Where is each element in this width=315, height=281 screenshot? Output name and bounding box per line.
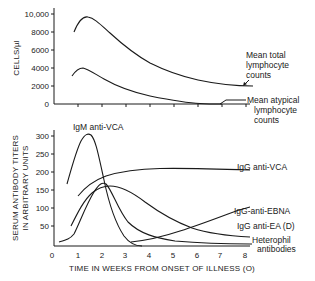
bottom-ytick-label: 200 [36, 168, 50, 177]
annotation-total-lymphocytes: Mean total lymphocyte counts [243, 50, 289, 86]
curve-atypical-lymphocytes [72, 68, 222, 104]
bottom-ytick-label: 250 [36, 150, 50, 159]
bottom-ytick-label: 100 [36, 204, 50, 213]
bottom-ytick-label: 50 [40, 222, 49, 231]
svg-text:Mean atypical: Mean atypical [247, 95, 300, 105]
svg-text:5: 5 [171, 251, 176, 260]
top-chart: 10,000 8000 6000 4000 2000 0 CELLS/µl Me… [12, 8, 300, 125]
top-ytick-label: 2000 [31, 82, 49, 91]
top-y-ticks: 10,000 8000 6000 4000 2000 0 [25, 10, 54, 109]
curve-total-lymphocytes [74, 17, 253, 86]
curve-igm-anti-vca [67, 134, 142, 246]
svg-text:6: 6 [195, 251, 200, 260]
svg-text:antibodies: antibodies [257, 244, 296, 254]
curve-igg-anti-ea [71, 186, 250, 237]
label-igm-anti-vca: IgM anti-VCA [73, 122, 124, 132]
bottom-x-ticks: 0 1 2 3 4 5 6 7 8 [50, 251, 248, 260]
svg-text:counts: counts [246, 70, 271, 80]
bottom-ytick-label: 300 [36, 132, 50, 141]
svg-text:2: 2 [100, 251, 105, 260]
curve-igg-anti-vca [78, 168, 250, 196]
svg-text:Mean total: Mean total [246, 50, 286, 60]
label-igg-anti-vca: IgG anti-VCA [237, 162, 287, 172]
label-igg-anti-ebna: IgG-anti-EBNA [234, 206, 291, 216]
svg-text:counts: counts [254, 115, 279, 125]
bottom-y-axis-title-line2: IN ARBITRARY UNITS [21, 145, 30, 230]
svg-text:8: 8 [243, 251, 248, 260]
top-y-axis-title: CELLS/µl [12, 40, 21, 76]
top-ytick-label: 4000 [31, 64, 49, 73]
svg-text:lymphocyte: lymphocyte [254, 105, 297, 115]
top-ytick-label: 8000 [31, 28, 49, 37]
svg-text:7: 7 [218, 251, 223, 260]
svg-text:0: 0 [50, 251, 55, 260]
annotation-atypical-lymphocytes: Mean atypical lymphocyte counts [220, 95, 300, 125]
bottom-y-axis-title-line1: SERUM ANTIBODY TITERS [11, 135, 20, 241]
label-igg-anti-ea: IgG anti-EA (D) [237, 221, 295, 231]
top-ytick-label: 6000 [31, 46, 49, 55]
svg-text:1: 1 [76, 251, 81, 260]
bottom-x-axis-title: TIME IN WEEKS FROM ONSET OF ILLNESS (O) [69, 264, 255, 273]
curve-igg-anti-ebna [131, 207, 250, 242]
bottom-y-ticks: 300 250 200 150 100 50 [36, 132, 54, 231]
top-ytick-label: 0 [45, 100, 50, 109]
arrow-icon [220, 100, 226, 104]
svg-text:4: 4 [147, 251, 152, 260]
top-ytick-label: 10,000 [25, 10, 50, 19]
ebv-serology-figure: 10,000 8000 6000 4000 2000 0 CELLS/µl Me… [0, 0, 315, 281]
svg-text:3: 3 [123, 251, 128, 260]
label-heterophil: Heterophil antibodies [250, 235, 296, 254]
bottom-chart: 300 250 200 150 100 50 0 1 2 3 4 5 6 7 8… [11, 122, 296, 273]
bottom-ytick-label: 150 [36, 186, 50, 195]
svg-text:lymphocyte: lymphocyte [246, 60, 289, 70]
